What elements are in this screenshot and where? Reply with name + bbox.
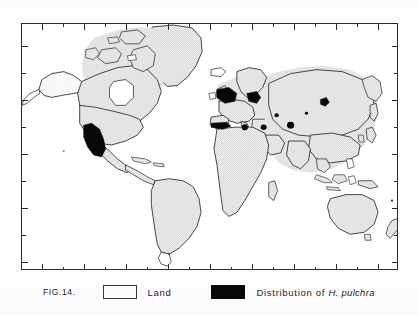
axis-tick-right: [392, 262, 398, 263]
axis-tick-left: [22, 73, 26, 74]
central-america-landmass: [125, 165, 155, 185]
legend-label-distribution-text: Distribution of: [256, 287, 325, 298]
philippines-islands: [346, 159, 354, 169]
axis-tick-top: [273, 24, 274, 27]
axis-tick-left: [22, 181, 26, 182]
legend-species-name: H. pulchra: [328, 287, 374, 298]
sulawesi-island: [348, 176, 356, 185]
map-plot-area: [22, 24, 397, 269]
legend-item-distribution: Distribution of H. pulchra: [211, 285, 374, 299]
axis-tick-bottom: [63, 267, 64, 270]
legend-label-land: Land: [148, 287, 172, 298]
distribution-caspian: [274, 113, 278, 117]
legend-swatch-distribution: [211, 285, 245, 299]
axis-tick-top: [210, 24, 211, 30]
axis-tick-bottom: [315, 267, 316, 270]
axis-tick-left: [22, 127, 26, 128]
axis-tick-bottom: [168, 264, 169, 270]
axis-tick-right: [392, 154, 398, 155]
pacific-island-dot-a: [391, 199, 393, 201]
map-frame: [21, 23, 398, 270]
axis-tick-bottom: [294, 264, 295, 270]
axis-tick-bottom: [252, 264, 253, 270]
south-america-landmass: [151, 179, 201, 254]
axis-tick-top: [168, 24, 169, 30]
axis-tick-top: [189, 24, 190, 27]
axis-tick-top: [357, 24, 358, 27]
hispaniola-island: [153, 163, 164, 167]
axis-tick-top: [252, 24, 253, 30]
alaska-peninsula: [22, 89, 40, 105]
axis-tick-top: [42, 24, 43, 30]
axis-tick-top: [294, 24, 295, 30]
land-masses: [22, 25, 397, 266]
figure-number-label: FIG.14.: [43, 287, 76, 297]
axis-tick-right: [392, 46, 398, 47]
korea-peninsula: [358, 135, 364, 142]
axis-tick-right: [392, 100, 398, 101]
australia-landmass: [327, 195, 378, 235]
axis-tick-left: [22, 262, 28, 263]
legend-label-distribution: Distribution of H. pulchra: [256, 287, 374, 298]
pacific-island-dot-b: [168, 253, 170, 255]
axis-tick-right: [394, 73, 398, 74]
atlantic-island-dot: [63, 150, 65, 152]
axis-tick-top: [147, 24, 148, 27]
axis-tick-right: [392, 208, 398, 209]
tasmania-island: [364, 234, 371, 240]
figure-legend: FIG.14. Land Distribution of H. pulchra: [21, 281, 398, 303]
kamchatka-peninsula: [370, 103, 378, 121]
madagascar-island: [269, 181, 278, 201]
axis-tick-bottom: [378, 264, 379, 270]
new-guinea-island: [358, 181, 378, 189]
axis-tick-left: [22, 100, 28, 101]
axis-tick-bottom: [147, 267, 148, 270]
axis-tick-top: [84, 24, 85, 30]
axis-tick-top: [63, 24, 64, 27]
figure-container: FIG.14. Land Distribution of H. pulchra: [0, 0, 418, 315]
axis-tick-bottom: [189, 267, 190, 270]
axis-tick-top: [231, 24, 232, 27]
distribution-aegean: [261, 124, 267, 130]
ireland-island: [209, 92, 216, 99]
distribution-black-sea: [287, 122, 294, 129]
axis-tick-bottom: [357, 267, 358, 270]
axis-tick-bottom: [273, 267, 274, 270]
axis-tick-top: [378, 24, 379, 30]
axis-tick-bottom: [126, 264, 127, 270]
distribution-central-mediterranean: [242, 124, 248, 130]
axis-tick-bottom: [42, 264, 43, 270]
axis-tick-top: [315, 24, 316, 27]
distribution-kazakhstan-dot: [305, 112, 308, 115]
axis-tick-left: [22, 235, 26, 236]
borneo-island: [332, 175, 347, 184]
world-map-svg: [22, 24, 397, 269]
axis-tick-top: [105, 24, 106, 27]
axis-tick-bottom: [84, 264, 85, 270]
legend-item-land: Land: [103, 285, 172, 299]
axis-tick-bottom: [336, 264, 337, 270]
iceland-island: [211, 68, 226, 77]
cuba-island: [131, 157, 151, 164]
arctic-island-small-b: [127, 55, 136, 61]
axis-tick-top: [126, 24, 127, 30]
axis-tick-bottom: [210, 264, 211, 270]
legend-swatch-land: [103, 285, 137, 299]
axis-tick-right: [394, 181, 398, 182]
axis-tick-left: [22, 154, 28, 155]
java-island: [326, 187, 340, 191]
axis-tick-bottom: [105, 267, 106, 270]
axis-tick-bottom: [231, 267, 232, 270]
axis-tick-left: [22, 46, 28, 47]
axis-tick-left: [22, 208, 28, 209]
axis-tick-top: [336, 24, 337, 30]
japan-islands: [366, 127, 376, 143]
sumatra-island: [314, 175, 332, 183]
axis-tick-right: [394, 127, 398, 128]
africa-landmass: [214, 127, 269, 216]
axis-tick-right: [394, 235, 398, 236]
